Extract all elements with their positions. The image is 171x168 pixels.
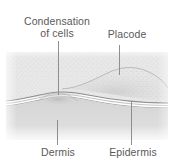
leader-line-epidermis [131, 101, 132, 145]
label-condensation-of-cells: Condensation of cells [9, 16, 105, 39]
edge-fade-bottom [0, 126, 171, 144]
leader-line-placode [119, 45, 120, 75]
label-dermis: Dermis [27, 147, 89, 159]
leader-line-dermis [57, 120, 58, 145]
edge-fade-top [0, 46, 171, 58]
label-condensation-line2: of cells [40, 27, 73, 39]
label-epidermis: Epidermis [97, 147, 169, 159]
label-placode: Placode [92, 29, 162, 41]
figure-skin-placode-diagram: Condensation of cells Placode Dermis Epi… [0, 0, 171, 168]
label-condensation-line1: Condensation [24, 15, 90, 27]
leader-line-condensation [58, 41, 59, 95]
